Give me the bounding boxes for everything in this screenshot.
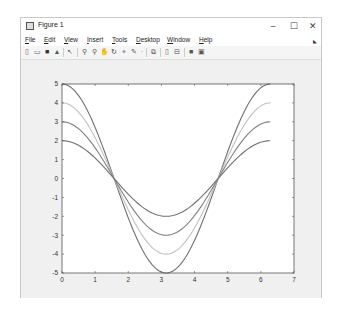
show-plot-tools-icon[interactable]: ▣ xyxy=(197,48,205,56)
y-tick-label: -3 xyxy=(52,232,58,239)
axes-background xyxy=(62,84,294,273)
pointer-icon[interactable]: ↖ xyxy=(66,48,74,56)
zoom-in-icon[interactable]: ⚲ xyxy=(80,48,88,56)
hide-plot-tools-icon[interactable]: ■ xyxy=(187,48,195,56)
y-tick-label: 5 xyxy=(54,80,58,87)
menu-view[interactable]: View xyxy=(64,36,78,43)
brush-dropdown-icon[interactable]: · xyxy=(138,48,146,56)
menu-help[interactable]: Help xyxy=(199,36,212,43)
y-tick-label: -5 xyxy=(52,269,58,276)
open-file-icon[interactable]: ▭ xyxy=(33,48,41,56)
toolbar-separator xyxy=(63,48,64,57)
menu-insert[interactable]: Insert xyxy=(87,36,103,43)
menu-edit[interactable]: Edit xyxy=(44,36,55,43)
x-tick-label: 3 xyxy=(160,276,164,283)
maximize-button[interactable]: ☐ xyxy=(287,20,301,32)
brush-icon[interactable]: ✎ xyxy=(130,48,138,56)
menu-desktop[interactable]: Desktop xyxy=(136,36,160,43)
zoom-out-icon[interactable]: ⚲ xyxy=(90,48,98,56)
toolbar: ▯ ▭ ■ ▲ ↖ ⚲ ⚲ ✋ ↻ ⌖ ✎ · ⧉ ▯ ⊟ ■ ▣ xyxy=(21,46,321,60)
toolbar-separator xyxy=(160,48,161,57)
print-icon[interactable]: ▲ xyxy=(53,48,61,56)
new-figure-icon[interactable]: ▯ xyxy=(23,48,31,56)
close-button[interactable]: ✕ xyxy=(306,20,320,32)
data-cursor-icon[interactable]: ⌖ xyxy=(120,48,128,56)
toolbar-separator xyxy=(146,48,147,57)
x-tick-label: 4 xyxy=(193,276,197,283)
y-tick-label: -1 xyxy=(52,194,58,201)
insert-legend-icon[interactable]: ⊟ xyxy=(173,48,181,56)
link-plot-icon[interactable]: ⧉ xyxy=(149,48,157,56)
y-tick-label: 2 xyxy=(54,137,58,144)
y-tick-label: 1 xyxy=(54,156,58,163)
x-tick-label: 5 xyxy=(226,276,230,283)
title-bar[interactable]: Figure 1 – ☐ ✕ xyxy=(21,18,321,34)
minimize-button[interactable]: – xyxy=(266,20,280,32)
toolbar-separator xyxy=(77,48,78,57)
y-tick-label: 0 xyxy=(54,175,58,182)
menu-window[interactable]: Window xyxy=(167,36,190,43)
menu-bar: File Edit View Insert Tools Desktop Wind… xyxy=(21,34,321,46)
matlab-figure-icon xyxy=(26,22,34,30)
x-tick-label: 2 xyxy=(126,276,130,283)
window-title: Figure 1 xyxy=(38,21,64,28)
x-tick-label: 1 xyxy=(93,276,97,283)
figure-canvas: 01234567543210-1-2-3-4-5 xyxy=(21,60,321,298)
y-tick-label: -2 xyxy=(52,213,58,220)
menu-file[interactable]: File xyxy=(25,36,36,43)
dock-arrow-icon[interactable]: ◣ xyxy=(313,38,317,44)
menu-tools[interactable]: Tools xyxy=(112,36,127,43)
y-tick-label: 4 xyxy=(54,99,58,106)
y-tick-label: -4 xyxy=(52,250,58,257)
x-tick-label: 0 xyxy=(60,276,64,283)
insert-colorbar-icon[interactable]: ▯ xyxy=(163,48,171,56)
x-tick-label: 7 xyxy=(292,276,296,283)
pan-icon[interactable]: ✋ xyxy=(100,48,108,56)
x-tick-label: 6 xyxy=(259,276,263,283)
rotate-3d-icon[interactable]: ↻ xyxy=(110,48,118,56)
line-chart: 01234567543210-1-2-3-4-5 xyxy=(21,60,321,298)
save-icon[interactable]: ■ xyxy=(43,48,51,56)
figure-window: Figure 1 – ☐ ✕ File Edit View Insert Too… xyxy=(20,17,322,298)
toolbar-separator xyxy=(184,48,185,57)
y-tick-label: 3 xyxy=(54,118,58,125)
